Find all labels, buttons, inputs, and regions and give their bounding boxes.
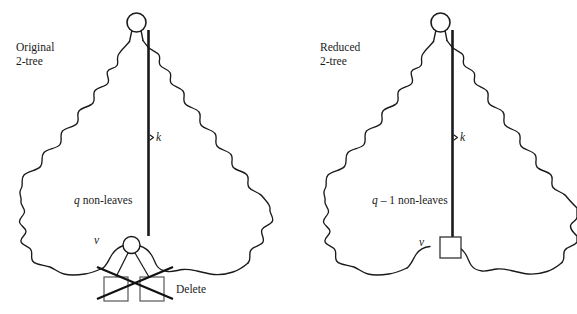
original-nonleaves-text: non-leaves [80,194,133,206]
original-v-label: v [94,234,99,248]
original-root-node-circle [127,13,146,32]
original-caption-line2: 2-tree [16,54,54,68]
reduced-tree-group [323,13,577,275]
reduced-node-right-hump [455,247,562,275]
reduced-q-nonleaves-label: q – 1 non-leaves [372,194,448,208]
original-node-left-hump [103,246,124,269]
original-caption-line1: Original [16,40,54,54]
reduced-caption-line1: Reduced [320,40,360,54]
original-tree-outline [19,42,129,275]
reduced-tree-outline [323,42,433,275]
original-q-nonleaves-label: q non-leaves [74,194,132,208]
original-k-label-text: k [156,131,161,143]
reduced-k-label: k [460,131,465,145]
original-node-v-circle [123,237,140,254]
original-caption: Original 2-tree [16,40,54,68]
original-leaf-edge-right [135,253,149,277]
reduced-nonleaves-text: – 1 non-leaves [378,194,448,206]
original-tree-outline-right [143,41,273,264]
reduced-node-v-square [440,237,461,258]
original-k-label: k [156,131,161,145]
delete-label-text: Delete [176,283,206,295]
figure-2-tree-reduction: Original 2-tree k q non-leaves v Delete … [0,0,577,314]
original-leaf-edge-left [116,253,128,277]
original-k-pointer [150,135,154,140]
reduced-node-left-hump [407,247,430,269]
original-tree-group [19,13,272,301]
reduced-k-pointer [454,135,458,140]
original-v-label-text: v [94,234,99,246]
reduced-caption: Reduced 2-tree [320,40,360,68]
reduced-v-label-text: v [419,236,424,248]
delete-label: Delete [176,283,206,297]
reduced-k-label-text: k [460,131,465,143]
reduced-caption-line2: 2-tree [320,54,360,68]
reduced-v-label: v [419,236,424,250]
figure-canvas [0,0,577,314]
reduced-tree-outline-right [447,41,577,263]
original-node-right-hump [140,246,248,275]
original-leaf-square-left [104,277,128,301]
reduced-root-node-circle [431,13,450,32]
